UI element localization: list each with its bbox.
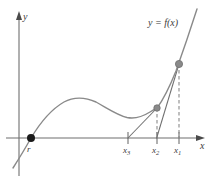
tangent-at-x2 bbox=[128, 108, 158, 139]
tick-label-x3-sub: 3 bbox=[127, 149, 130, 156]
root-point bbox=[27, 134, 35, 142]
tick-label-x2: x2 bbox=[152, 146, 159, 156]
tick-label-x3: x3 bbox=[123, 146, 130, 156]
tick-label-x1: x1 bbox=[174, 146, 181, 156]
x-axis-label: x bbox=[200, 141, 204, 151]
newton-method-figure: y x y = f(x) r x3 x2 x1 bbox=[0, 0, 211, 180]
tick-label-x1-sub: 1 bbox=[178, 149, 181, 156]
y-axis bbox=[16, 11, 22, 176]
point-on-curve-x2 bbox=[154, 105, 160, 111]
point-on-curve-x1 bbox=[175, 60, 182, 67]
curve-equation-label: y = f(x) bbox=[148, 18, 178, 28]
root-label: r bbox=[27, 145, 31, 154]
function-curve bbox=[13, 9, 197, 168]
tick-label-x2-sub: 2 bbox=[156, 149, 159, 156]
y-axis-label: y bbox=[23, 12, 27, 22]
y-axis-arrow-icon bbox=[16, 11, 22, 20]
tangent-at-x1 bbox=[157, 64, 180, 139]
tangent-lines bbox=[128, 64, 180, 139]
x-axis bbox=[6, 135, 205, 141]
